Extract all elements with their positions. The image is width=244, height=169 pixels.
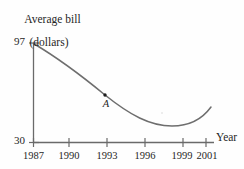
y-tick-label-97: 97: [14, 36, 25, 47]
x-tick-label-1993: 1993: [97, 150, 118, 161]
x-tick-label-1996: 1996: [135, 150, 156, 161]
point-a-label: A: [103, 99, 109, 110]
x-tick-label-1999: 1999: [172, 150, 193, 161]
y-tick-label-30: 30: [14, 135, 25, 146]
x-tick-label-1987: 1987: [23, 150, 44, 161]
scan-speck: [161, 112, 163, 114]
y-axis-title-line1: Average bill: [24, 13, 80, 25]
x-tick-label-2001: 2001: [197, 150, 218, 161]
point-a-marker: [103, 93, 106, 96]
graph-figure: Average bill (dollars) 97 30 1987 1990 1…: [0, 0, 244, 169]
x-tick-label-1990: 1990: [59, 150, 80, 161]
x-axis-title: Year: [216, 132, 237, 144]
